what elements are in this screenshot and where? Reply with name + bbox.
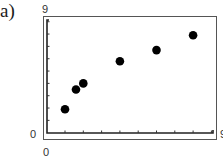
data-point [61, 105, 70, 114]
y-axis [47, 20, 213, 133]
data-point [189, 31, 198, 40]
data-point [116, 57, 125, 66]
data-point [72, 85, 81, 94]
axes [47, 20, 213, 133]
data-point [79, 79, 88, 88]
data-point [152, 46, 161, 55]
data-points [61, 31, 198, 114]
scatter-plot [0, 0, 223, 160]
